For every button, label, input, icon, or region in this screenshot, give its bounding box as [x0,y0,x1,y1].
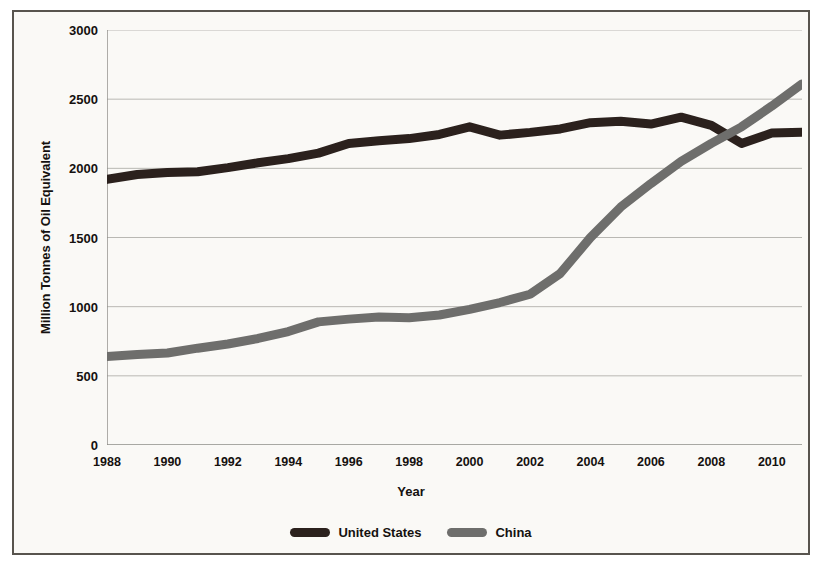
y-tick-label: 500 [38,368,98,383]
x-tick-label: 2008 [681,455,741,469]
legend-item[interactable]: United States [290,525,421,540]
x-tick-label: 2006 [621,455,681,469]
plot-svg [107,30,802,445]
y-tick-label: 2500 [38,92,98,107]
x-tick-label: 1990 [137,455,197,469]
y-tick-label: 3000 [38,23,98,38]
plot-area [107,30,802,445]
y-tick-label: 1000 [38,299,98,314]
x-tick-label: 1996 [319,455,379,469]
x-tick-label: 1988 [77,455,137,469]
x-tick-label: 1998 [379,455,439,469]
legend-label: China [495,525,531,540]
x-tick-label: 2000 [440,455,500,469]
legend-item[interactable]: China [447,525,531,540]
x-tick-label: 2002 [500,455,560,469]
x-axis-tick-labels: 1988199019921994199619982000200220042006… [107,455,802,475]
chart-figure: Million Tonnes of Oil Equivalent 0500100… [12,10,810,555]
x-tick-label: 2004 [560,455,620,469]
x-tick-label: 1994 [258,455,318,469]
legend-swatch-icon [290,528,330,537]
y-tick-label: 0 [38,438,98,453]
y-axis-tick-labels: 050010001500200025003000 [34,30,98,445]
legend-swatch-icon [447,528,487,537]
x-axis-title: Year [14,484,808,499]
x-tick-label: 1992 [198,455,258,469]
y-tick-label: 2000 [38,161,98,176]
chart-legend: United StatesChina [14,525,808,540]
x-tick-label: 2010 [742,455,802,469]
y-tick-label: 1500 [38,230,98,245]
gridlines [107,30,802,376]
data-series [107,84,802,357]
chart-inner: Million Tonnes of Oil Equivalent 0500100… [14,12,808,553]
legend-label: United States [338,525,421,540]
